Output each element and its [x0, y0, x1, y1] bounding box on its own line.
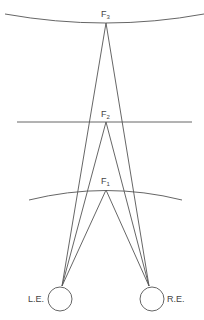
left-eye-label: L.E. — [28, 294, 44, 304]
right-eye — [140, 287, 164, 311]
right-eye-to-f3-line — [106, 23, 149, 286]
right-eye-label: R.E. — [167, 294, 185, 304]
left-eye-to-f3-line — [62, 23, 106, 286]
left-eye — [48, 287, 72, 311]
f1-label: F1 — [101, 176, 111, 187]
f2-label: F2 — [101, 109, 111, 120]
f3-label: F3 — [101, 9, 111, 20]
binocular-fixation-diagram: F3 F2 F1 L.E. R.E. — [0, 0, 204, 320]
